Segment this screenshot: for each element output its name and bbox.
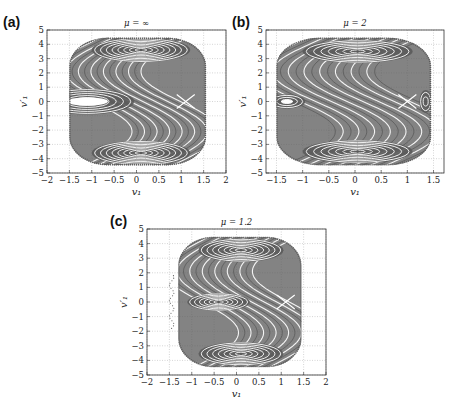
- x-tick-label: 1: [279, 377, 284, 387]
- y-tick-label: −2: [31, 125, 44, 135]
- y-tick-label: 4: [258, 39, 263, 49]
- y-tick-label: 4: [39, 39, 44, 49]
- y-tick-label: −5: [131, 370, 144, 380]
- y-tick-label: 1: [39, 82, 44, 92]
- orbit-layer: [249, 36, 461, 168]
- plot-title: μ = ∞: [124, 18, 149, 28]
- x-tick-label: −0.5: [104, 175, 125, 185]
- y-tick-label: −1: [31, 111, 44, 121]
- y-tick-label: −4: [31, 154, 44, 164]
- x-tick-label: 2: [223, 175, 228, 185]
- y-tick-label: 5: [39, 25, 44, 35]
- x-tick-label: 0: [352, 175, 357, 185]
- y-tick-label: 0: [258, 97, 263, 107]
- figure-canvas: −2−1.5−1−0.500.511.52−5−4−3−2−1012345μ =…: [0, 0, 462, 413]
- y-tick-label: 2: [139, 268, 144, 278]
- x-tick-label: 1.5: [197, 175, 211, 185]
- y-tick-label: 3: [39, 54, 44, 64]
- plot-c: −2−1.5−1−0.500.511.52−5−4−3−2−1012345μ =…: [118, 217, 329, 399]
- y-tick-label: −1: [131, 312, 144, 322]
- x-tick-label: −1: [296, 175, 309, 185]
- x-tick-label: −1.5: [266, 175, 287, 185]
- scatter-point: [171, 328, 172, 329]
- y-tick-label: 1: [258, 82, 263, 92]
- plot-a: −2−1.5−1−0.500.511.52−5−4−3−2−1012345μ =…: [18, 18, 229, 197]
- y-tick-label: −2: [250, 125, 263, 135]
- scatter-point: [172, 295, 173, 296]
- scatter-point: [169, 300, 170, 301]
- x-tick-label: −1.5: [159, 377, 180, 387]
- y-tick-label: 3: [258, 54, 263, 64]
- y-tick-label: −3: [131, 341, 144, 351]
- x-tick-label: 0: [234, 377, 239, 387]
- y-tick-label: −4: [131, 355, 144, 365]
- scatter-point: [170, 313, 171, 314]
- scatter-point: [169, 285, 170, 286]
- y-tick-label: −5: [31, 168, 44, 178]
- orbit-layer: [165, 235, 327, 369]
- scatter-point: [173, 308, 174, 309]
- y-tick-label: −3: [250, 139, 263, 149]
- scatter-point: [173, 325, 174, 326]
- x-tick-label: 0.5: [252, 377, 266, 387]
- x-tick-label: −1: [85, 175, 98, 185]
- x-tick-label: 1: [179, 175, 184, 185]
- plot-b: −1.5−1−0.500.511.5−5−4−3−2−1012345μ = 2v…: [237, 18, 461, 197]
- x-tick-label: 2: [323, 377, 328, 387]
- scatter-point: [169, 283, 170, 284]
- scatter-point: [172, 310, 173, 311]
- scatter-point: [169, 315, 170, 316]
- x-axis-label: v₁: [350, 186, 360, 197]
- scatter-point: [170, 298, 171, 299]
- y-axis-label: v′₁: [118, 296, 129, 308]
- x-tick-label: 0.5: [374, 175, 388, 185]
- scatter-point: [173, 275, 174, 276]
- y-tick-label: 0: [39, 97, 44, 107]
- y-tick-label: −2: [131, 326, 144, 336]
- x-tick-label: 1: [405, 175, 410, 185]
- y-tick-label: 5: [258, 25, 263, 35]
- x-tick-label: −1: [185, 377, 198, 387]
- y-tick-label: 3: [139, 253, 144, 263]
- scatter-point: [173, 293, 174, 294]
- plot-title: μ = 2: [343, 18, 366, 28]
- x-tick-label: 1.5: [427, 175, 441, 185]
- x-tick-label: 1.5: [297, 377, 311, 387]
- y-tick-label: −3: [31, 139, 44, 149]
- x-axis-label: v₁: [232, 388, 242, 399]
- y-tick-label: −4: [250, 154, 263, 164]
- x-tick-label: −0.5: [319, 175, 340, 185]
- y-tick-label: −5: [250, 168, 263, 178]
- y-tick-label: 5: [139, 224, 144, 234]
- x-tick-label: −0.5: [204, 377, 225, 387]
- y-tick-label: 0: [139, 297, 144, 307]
- y-axis-label: v′₁: [237, 96, 248, 108]
- x-axis-label: v₁: [132, 186, 142, 197]
- scatter-point: [172, 305, 173, 306]
- scatter-point: [169, 318, 170, 319]
- scatter-point: [170, 303, 171, 304]
- scatter-point: [173, 278, 174, 279]
- y-tick-label: 4: [139, 239, 144, 249]
- scatter-point: [171, 320, 172, 321]
- y-tick-label: −1: [250, 111, 263, 121]
- x-tick-label: −1.5: [59, 175, 80, 185]
- y-axis-label: v′₁: [18, 96, 29, 108]
- y-tick-label: 2: [39, 68, 44, 78]
- scatter-point: [173, 323, 174, 324]
- scatter-point: [170, 288, 171, 289]
- y-tick-label: 1: [139, 282, 144, 292]
- x-tick-label: 0: [134, 175, 139, 185]
- plot-title: μ = 1.2: [221, 217, 253, 227]
- scatter-point: [172, 290, 173, 291]
- y-tick-label: 2: [258, 68, 263, 78]
- scatter-point: [171, 280, 172, 281]
- x-tick-label: 0.5: [152, 175, 166, 185]
